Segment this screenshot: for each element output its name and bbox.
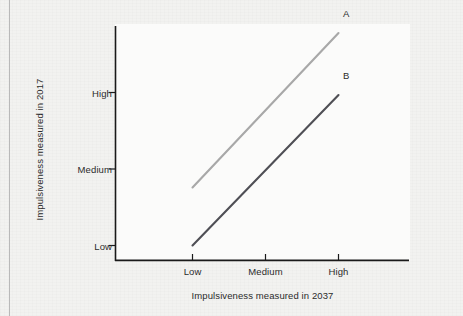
series-label-a: A [343,8,349,19]
chart-canvas [0,0,463,316]
chart-figure: High Medium Low Low Medium High Impulsiv… [0,0,463,316]
y-tick-label-medium: Medium [56,164,112,175]
series-line-b [193,95,339,246]
series-label-b: B [343,70,349,81]
x-tick-label-high: High [329,266,349,277]
x-tick-label-low: Low [184,266,202,277]
x-tick-label-medium: Medium [248,266,282,277]
y-axis-title: Impulsiveness measured in 2017 [34,65,45,235]
y-tick-label-high: High [64,87,112,98]
y-tick-label-low: Low [64,240,112,251]
x-axis-title: Impulsiveness measured in 2037 [115,290,410,301]
series-line-a [193,33,339,188]
